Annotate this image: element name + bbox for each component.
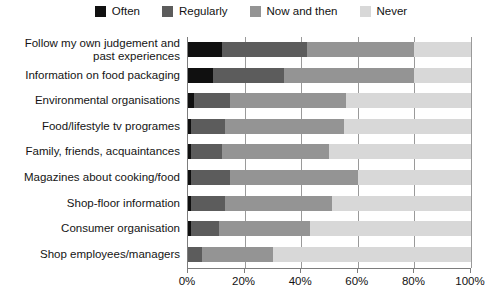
- stacked-bar: [188, 144, 471, 159]
- bar-segment-never: [346, 93, 471, 108]
- category-label-line: Magazines about cooking/food: [0, 171, 180, 184]
- stacked-bar: [188, 68, 471, 83]
- category-label: Shop employees/managers: [0, 248, 180, 261]
- category-label: Environmental organisations: [0, 94, 180, 107]
- stacked-bar: [188, 247, 471, 262]
- x-axis-tickmark: [357, 269, 358, 273]
- bar-segment-regularly: [213, 68, 284, 83]
- x-axis-tickmark: [244, 269, 245, 273]
- legend-swatch-icon: [162, 6, 173, 17]
- gridline: [471, 37, 472, 268]
- category-label: Magazines about cooking/food: [0, 171, 180, 184]
- legend-entry-often: Often: [95, 6, 140, 17]
- stacked-bar: [188, 170, 471, 185]
- bar-segment-now-and-then: [222, 144, 330, 159]
- category-label-line: Environmental organisations: [0, 94, 180, 107]
- bar-segment-never: [414, 68, 471, 83]
- category-label-line: Follow my own judgement and: [0, 37, 180, 50]
- x-axis-line: [187, 268, 471, 269]
- bar-segment-never: [332, 196, 471, 211]
- category-label: Shop-floor information: [0, 197, 180, 210]
- category-label-line: Family, friends, acquaintances: [0, 145, 180, 158]
- stacked-bar: [188, 221, 471, 236]
- bar-segment-regularly: [191, 221, 219, 236]
- x-axis-tick-label: 60%: [345, 275, 368, 287]
- bar-segment-never: [344, 119, 471, 134]
- x-axis-tickmark: [187, 269, 188, 273]
- category-label: Family, friends, acquaintances: [0, 145, 180, 158]
- legend-label: Now and then: [267, 6, 338, 17]
- bar-segment-now-and-then: [219, 221, 310, 236]
- x-axis-tick-label: 80%: [402, 275, 425, 287]
- bar-segment-regularly: [222, 42, 307, 57]
- legend-swatch-icon: [250, 6, 261, 17]
- category-label-line: Consumer organisation: [0, 222, 180, 235]
- category-label: Follow my own judgement andpast experien…: [0, 37, 180, 62]
- bar-segment-never: [310, 221, 471, 236]
- bar-segment-regularly: [188, 247, 202, 262]
- bar-segment-regularly: [191, 119, 225, 134]
- bar-segment-never: [273, 247, 471, 262]
- category-label-line: Information on food packaging: [0, 69, 180, 82]
- bar-segment-now-and-then: [230, 93, 346, 108]
- chart-legend: OftenRegularlyNow and thenNever: [0, 6, 502, 17]
- x-axis-tickmark: [470, 269, 471, 273]
- stacked-bar: [188, 196, 471, 211]
- x-axis-tick-label: 100%: [455, 275, 484, 287]
- stacked-bar: [188, 93, 471, 108]
- bar-segment-now-and-then: [284, 68, 414, 83]
- bar-segment-regularly: [194, 93, 231, 108]
- category-label: Food/lifestyle tv programes: [0, 120, 180, 133]
- legend-entry-regularly: Regularly: [162, 6, 228, 17]
- bar-segment-never: [329, 144, 471, 159]
- bar-segment-regularly: [191, 170, 231, 185]
- x-axis-tick-label: 20%: [232, 275, 255, 287]
- stacked-bar-chart: OftenRegularlyNow and thenNever 0%20%40%…: [0, 0, 502, 302]
- bar-segment-regularly: [191, 144, 222, 159]
- category-label-line: Shop employees/managers: [0, 248, 180, 261]
- legend-entry-now-and-then: Now and then: [250, 6, 338, 17]
- legend-swatch-icon: [95, 6, 106, 17]
- bar-segment-often: [188, 42, 222, 57]
- bar-segment-often: [188, 68, 213, 83]
- bar-segment-never: [414, 42, 471, 57]
- x-axis-tickmark: [413, 269, 414, 273]
- x-axis-tick-label: 0%: [179, 275, 196, 287]
- bar-segment-now-and-then: [225, 119, 344, 134]
- category-label-line: past experiences: [0, 50, 180, 63]
- bar-segment-now-and-then: [230, 170, 357, 185]
- x-axis-tick-label: 40%: [289, 275, 312, 287]
- category-label-line: Food/lifestyle tv programes: [0, 120, 180, 133]
- legend-label: Regularly: [179, 6, 228, 17]
- bar-segment-never: [358, 170, 471, 185]
- bar-segment-now-and-then: [202, 247, 273, 262]
- legend-swatch-icon: [360, 6, 371, 17]
- bar-segment-regularly: [191, 196, 225, 211]
- bar-segment-now-and-then: [225, 196, 333, 211]
- legend-entry-never: Never: [360, 6, 408, 17]
- stacked-bar: [188, 42, 471, 57]
- x-axis-tickmark: [300, 269, 301, 273]
- bar-segment-now-and-then: [307, 42, 415, 57]
- category-label: Information on food packaging: [0, 69, 180, 82]
- category-label: Consumer organisation: [0, 222, 180, 235]
- legend-label: Often: [112, 6, 140, 17]
- legend-label: Never: [377, 6, 408, 17]
- stacked-bar: [188, 119, 471, 134]
- category-label-line: Shop-floor information: [0, 197, 180, 210]
